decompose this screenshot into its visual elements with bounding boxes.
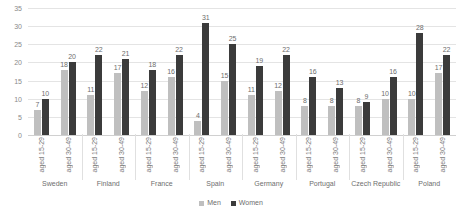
bar-women: 22 <box>95 55 102 135</box>
bar-women: 16 <box>390 77 397 135</box>
bar-women: 20 <box>69 62 76 135</box>
bar-value-label: 22 <box>95 46 103 54</box>
age-group-label: aged 30-49 <box>269 135 296 180</box>
age-group-label: aged 30-49 <box>215 135 242 180</box>
country-age-labels: aged 15-29aged 30-49 <box>296 135 350 180</box>
y-axis-tick-label: 30 <box>14 23 22 30</box>
bar-value-label: 22 <box>175 46 183 54</box>
age-group-label: aged 15-29 <box>403 135 430 180</box>
bar-value-label: 15 <box>221 72 229 80</box>
bar-value-label: 22 <box>282 46 290 54</box>
country-label: Poland <box>403 178 457 192</box>
country-group: 11221721 <box>82 8 136 135</box>
country-label: Czech Republic <box>349 178 403 192</box>
country-group: 10281722 <box>403 8 457 135</box>
bar-women: 22 <box>176 55 183 135</box>
legend-item[interactable]: Men <box>199 199 221 207</box>
country-age-labels: aged 15-29aged 30-49 <box>349 135 403 180</box>
age-cell: 1622 <box>162 8 189 135</box>
age-cell: 710 <box>28 8 55 135</box>
age-group-label: aged 15-29 <box>28 135 55 180</box>
age-group-label: aged 15-29 <box>189 135 216 180</box>
age-group-label: aged 15-29 <box>135 135 162 180</box>
country-age-labels: aged 15-29aged 30-49 <box>135 135 189 180</box>
country-label: Finland <box>82 178 136 192</box>
country-group: 891016 <box>349 8 403 135</box>
bar-men: 12 <box>141 91 148 135</box>
y-axis-tick-label: 5 <box>18 113 22 120</box>
bar-value-label: 20 <box>68 53 76 61</box>
country-label: Germany <box>242 178 296 192</box>
age-group-label: aged 15-29 <box>349 135 376 180</box>
bar-women: 10 <box>42 99 49 135</box>
age-group-label: aged 30-49 <box>376 135 403 180</box>
y-axis-tick-label: 0 <box>18 132 22 139</box>
age-group-label: aged 30-49 <box>322 135 349 180</box>
country-label: Sweden <box>28 178 82 192</box>
bar-value-label: 10 <box>408 90 416 98</box>
bar-value-label: 17 <box>114 64 122 72</box>
age-cell: 89 <box>349 8 376 135</box>
country-group: 7101820 <box>28 8 82 135</box>
bar-women: 13 <box>336 88 343 135</box>
bar-value-label: 12 <box>140 82 148 90</box>
age-cell: 813 <box>322 8 349 135</box>
y-axis-tick-label: 35 <box>14 5 22 12</box>
age-cell: 816 <box>296 8 323 135</box>
age-cell: 1218 <box>135 8 162 135</box>
legend-item[interactable]: Women <box>231 199 263 207</box>
bar-men: 15 <box>221 81 228 135</box>
bar-men: 17 <box>435 73 442 135</box>
country-age-labels: aged 15-29aged 30-49 <box>403 135 457 180</box>
bar-value-label: 11 <box>87 86 94 94</box>
age-cell: 1122 <box>82 8 109 135</box>
age-cell: 1016 <box>376 8 403 135</box>
age-cell: 1028 <box>403 8 430 135</box>
bar-value-label: 12 <box>274 82 282 90</box>
bar-value-label: 13 <box>336 79 344 87</box>
country-axis: SwedenFinlandFranceSpainGermanyPortugalC… <box>28 178 456 192</box>
country-group: 816813 <box>296 8 350 135</box>
country-label: Portugal <box>296 178 350 192</box>
country-age-labels: aged 15-29aged 30-49 <box>242 135 296 180</box>
bar-women: 22 <box>443 55 450 135</box>
y-axis-tick-label: 20 <box>14 59 22 66</box>
age-cell: 1820 <box>55 8 82 135</box>
age-cell: 431 <box>189 8 216 135</box>
bar-value-label: 18 <box>60 61 68 69</box>
bar-value-label: 8 <box>356 97 360 105</box>
bar-women: 19 <box>256 66 263 135</box>
bar-value-label: 18 <box>148 61 156 69</box>
bar-men: 11 <box>248 95 255 135</box>
bar-men: 16 <box>168 77 175 135</box>
bar-chart: 05101520253035 7101820112217211218162243… <box>0 0 462 215</box>
age-group-label: aged 15-29 <box>296 135 323 180</box>
bar-women: 22 <box>283 55 290 135</box>
country-group: 11191222 <box>242 8 296 135</box>
age-group-label: aged 30-49 <box>108 135 135 180</box>
legend-swatch-icon <box>199 201 204 206</box>
bar-value-label: 8 <box>303 97 307 105</box>
bar-men: 11 <box>87 95 94 135</box>
bar-value-label: 10 <box>41 90 49 98</box>
country-age-labels: aged 15-29aged 30-49 <box>28 135 82 180</box>
chart-legend: MenWomen <box>0 196 462 210</box>
bar-women: 9 <box>363 102 370 135</box>
bar-value-label: 10 <box>381 90 389 98</box>
age-group-label: aged 30-49 <box>429 135 456 180</box>
bar-men: 4 <box>194 121 201 136</box>
age-group-label: aged 15-29 <box>82 135 109 180</box>
age-cell: 1119 <box>242 8 269 135</box>
bar-men: 8 <box>328 106 335 135</box>
bar-value-label: 25 <box>229 35 237 43</box>
y-axis-tick-label: 15 <box>14 77 22 84</box>
country-group: 12181622 <box>135 8 189 135</box>
bar-men: 17 <box>114 73 121 135</box>
age-cell: 1222 <box>269 8 296 135</box>
y-axis-tick-label: 25 <box>14 41 22 48</box>
bar-men: 12 <box>275 91 282 135</box>
y-axis: 05101520253035 <box>0 8 26 135</box>
plot-area: 7101820112217211218162243115251119122281… <box>28 8 456 135</box>
age-group-label: aged 30-49 <box>55 135 82 180</box>
age-group-label: aged 15-29 <box>242 135 269 180</box>
